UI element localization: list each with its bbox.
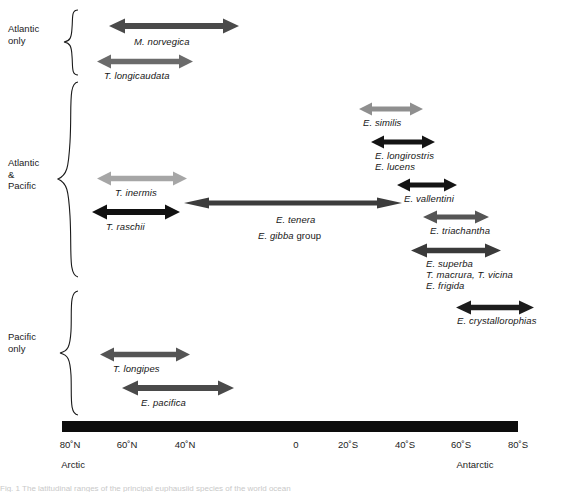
caption-e-gibba: E. gibba [258, 230, 294, 241]
axis-tick-60n: 60˚N [102, 439, 152, 450]
arrow-e-longirostris [370, 134, 436, 150]
caption-e-gibba-group: E. gibba group [258, 230, 321, 241]
axis-tick-80s: 80˚S [493, 439, 543, 450]
caption-t-inermis: T. inermis [115, 187, 157, 198]
caption-e-longirostris-lucens: E. longirostris E. lucens [375, 150, 434, 172]
caption-t-raschii: T. raschii [106, 221, 145, 232]
caption-e-crystallorophias: E. crystallorophias [457, 315, 537, 326]
arrow-t-longicaudata [96, 53, 194, 70]
group-label-atlantic-only: Atlantic only [8, 23, 60, 46]
caption-m-norvegica: M. norvegica [134, 36, 190, 47]
caption-t-longicaudata: T. longicaudata [104, 70, 170, 81]
arrow-e-pacifica [121, 379, 235, 397]
latitude-axis-bar [62, 421, 518, 432]
arrow-t-raschii [91, 203, 181, 221]
caption-e-gibba-suffix: group [294, 230, 322, 241]
brace-atlantic-only [62, 8, 80, 78]
axis-label-arctic: Arctic [43, 459, 103, 470]
arrow-e-crystallorophias [455, 299, 535, 316]
arrow-e-similis [358, 101, 424, 117]
caption-e-similis: E. similis [363, 117, 401, 128]
arrow-e-triachantha [422, 209, 490, 225]
arrow-t-longipes [99, 346, 191, 363]
group-label-pacific-only: Pacific only [8, 331, 60, 354]
caption-e-vallentini: E. vallentini [404, 193, 454, 204]
caption-e-tenera: E. tenera [276, 214, 315, 225]
axis-tick-60s: 60˚S [436, 439, 486, 450]
axis-label-antarctic: Antarctic [440, 459, 510, 470]
caption-e-triachantha: E. triachantha [430, 225, 490, 236]
axis-tick-80n: 80˚N [45, 439, 95, 450]
arrow-t-inermis [96, 170, 188, 187]
axis-tick-40n: 40˚N [160, 439, 210, 450]
caption-t-longipes: T. longipes [113, 363, 160, 374]
arrow-m-norvegica [108, 17, 240, 35]
distribution-figure: Atlantic only Atlantic & Pacific Pacific… [0, 0, 562, 492]
arrow-e-tenera [183, 194, 403, 212]
axis-tick-0: 0 [271, 439, 321, 450]
arrow-e-superba [410, 242, 502, 259]
caption-e-pacifica: E. pacifica [141, 397, 186, 408]
figure-bottom-caption: Fig. 1 The latitudinal ranges of the pri… [0, 484, 562, 492]
axis-tick-40s: 40˚S [380, 439, 430, 450]
caption-e-superba-group: E. superba T. macrura, T. vicina E. frig… [426, 258, 513, 292]
group-label-atlantic-and-pacific: Atlantic & Pacific [8, 157, 60, 192]
brace-pacific-only [58, 289, 80, 417]
arrow-e-vallentini [396, 177, 458, 193]
brace-atlantic-and-pacific [56, 80, 80, 280]
axis-tick-20s: 20˚S [323, 439, 373, 450]
